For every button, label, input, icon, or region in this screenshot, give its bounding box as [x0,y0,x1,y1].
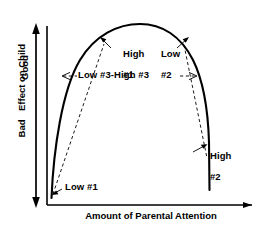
annotation-high-1: High #1 [112,38,144,91]
annotation-high-2-line-2: #2 [210,171,221,182]
figure-canvas: Effect on Child Good Bad Amount of Paren… [0,0,265,230]
annotation-low-2: Low #2 [150,38,180,91]
annotation-low-2-line-1: Low [161,48,180,59]
annotation-low-2-line-2: #2 [161,69,172,80]
annotation-low-1: Low #1 [65,182,98,193]
good-arrowhead-icon [32,23,40,34]
annotation-high-1-line-1: High [123,48,145,59]
annotation-high-2-line-1: High [210,150,232,161]
annotation-high-2: High #2 [199,140,231,193]
y-axis-bad-label: Bad [16,112,27,146]
x-axis-title: Amount of Parental Attention [47,210,255,221]
bad-arrowhead-icon [32,197,40,208]
high1-arrowhead-icon [100,37,106,43]
y-axis-good-label: Good [19,48,30,88]
annotation-low-3-high-3: Low #3-High #3 [78,70,149,81]
plot-drawing [0,0,265,230]
x-axis-arrowhead-icon [243,202,252,208]
